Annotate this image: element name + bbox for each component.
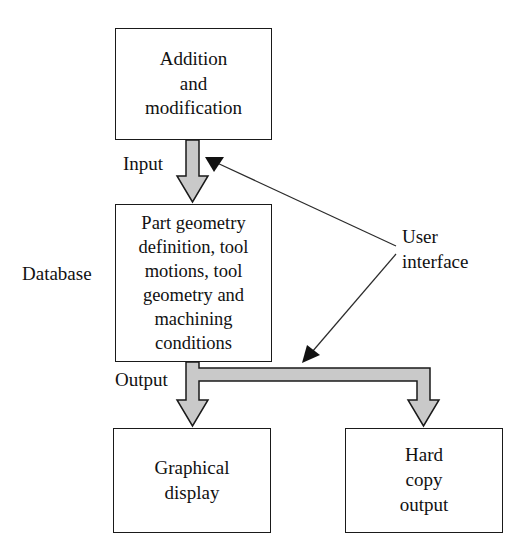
diagram-canvas: Addition and modification Part geometry …	[0, 0, 531, 558]
node-database-contents[interactable]: Part geometry definition, tool motions, …	[115, 204, 272, 362]
edge-label-input: Input	[123, 152, 163, 177]
user-interface-output-line	[312, 254, 396, 352]
node-addition-label: Addition and modification	[139, 47, 248, 121]
node-addition-and-modification[interactable]: Addition and modification	[115, 28, 272, 140]
output-block-arrow	[177, 362, 439, 426]
node-database-label: Part geometry definition, tool motions, …	[133, 211, 255, 355]
input-block-arrow	[177, 140, 208, 202]
node-hard-copy-output-label: Hard copy output	[394, 443, 455, 517]
node-hard-copy-output[interactable]: Hard copy output	[345, 428, 503, 533]
annotation-database: Database	[22, 262, 92, 287]
user-interface-output-arrowhead	[302, 345, 320, 363]
node-graphical-display[interactable]: Graphical display	[113, 428, 271, 533]
node-graphical-display-label: Graphical display	[149, 456, 236, 505]
annotation-user-interface: User interface	[402, 225, 468, 274]
edge-label-output: Output	[115, 368, 168, 393]
